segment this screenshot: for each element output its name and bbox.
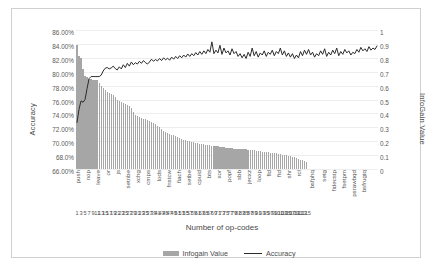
y-tick-label-right: 0	[380, 169, 384, 175]
x-category-label: fsetpm	[340, 170, 347, 189]
y-tick-label-left: 70.00%	[52, 141, 74, 147]
y-tick-label-right: 0.6	[380, 86, 389, 92]
y-tick-label-left: 74.00%	[52, 113, 74, 119]
x-category-label: loop	[255, 170, 262, 182]
y-tick-label-right: 0.4	[380, 113, 389, 119]
y-tick-label-right: 0.8	[380, 58, 389, 64]
y-tick-label-left: 86.00%	[52, 30, 74, 36]
x-category-label: setnbe	[124, 170, 131, 189]
x-category-label: fld	[265, 170, 272, 177]
x-category-label: bts	[205, 170, 212, 178]
plot-area	[76, 30, 378, 169]
y-tick-label-left: 72.00%	[52, 127, 74, 133]
x-category-label: ftd	[275, 170, 282, 177]
y-tick-label-left: 68.0%	[56, 155, 74, 161]
legend-item-accuracy: Accuracy	[244, 249, 296, 258]
x-category-label: bsfphq	[308, 170, 315, 189]
y-tick-label-left: 84.00%	[52, 44, 74, 50]
y-axis-title-right: InfoGain Value	[416, 64, 428, 174]
x-category-label: psrawbqd	[350, 170, 357, 197]
x-category-label: nop	[84, 170, 91, 180]
y-tick-label-left: 76.00%	[52, 100, 74, 106]
x-category-label: sbb	[235, 170, 242, 180]
x-category-label: cpuid	[195, 170, 202, 185]
x-category-label: or	[104, 170, 111, 176]
y-axis-tick-labels-left: 66.00%68.0%70.00%72.00%74.00%76.00%78.00…	[36, 27, 74, 169]
x-category-label: fidecstp	[330, 170, 337, 191]
x-tick-number: 1	[75, 210, 78, 216]
y-tick-label-right: 0.9	[380, 44, 389, 50]
x-category-label: lods	[155, 170, 162, 181]
x-tick-number: 5	[83, 210, 86, 216]
legend-item-infogain: Infogain Value	[163, 249, 228, 258]
y-tick-label-left: 82.00%	[52, 58, 74, 64]
y-tick-label-left: 66.00%	[52, 169, 74, 175]
line-series-accuracy	[76, 30, 378, 169]
line-swatch-icon	[244, 253, 262, 254]
x-category-label: leave	[94, 170, 101, 185]
y-axis-title-right-label: InfoGain Value	[418, 93, 427, 145]
legend-label-infogain: Infogain Value	[183, 249, 228, 258]
y-tick-label-right: 0.5	[380, 100, 389, 106]
y-tick-label-right: 0.3	[380, 127, 389, 133]
x-category-label: popf	[225, 170, 232, 182]
x-tick-number: 115	[302, 210, 311, 216]
x-tick-number: 3	[79, 210, 82, 216]
x-category-label: xchg	[134, 170, 141, 183]
x-category-label: push	[74, 170, 81, 183]
y-tick-label-left: 78.00%	[52, 86, 74, 92]
x-axis-title: Number of op-codes	[72, 223, 372, 232]
legend-label-accuracy: Accuracy	[266, 249, 296, 258]
x-category-label: js	[114, 170, 121, 174]
x-category-label: setbe	[185, 170, 192, 185]
x-category-label: bsfrugtq	[360, 170, 367, 192]
chart-legend: Infogain Value Accuracy	[12, 249, 434, 258]
chart-frame: Accuracy InfoGain Value 66.00%68.0%70.00…	[11, 8, 421, 258]
x-category-label: jecxz	[245, 170, 252, 184]
bar-swatch-icon	[163, 251, 179, 256]
y-axis-tick-labels-right: 00.10.20.30.40.50.60.70.80.91	[378, 27, 396, 169]
y-tick-label-right: 1	[380, 30, 384, 36]
x-category-label: fiach	[175, 170, 182, 183]
x-category-label: xor	[215, 170, 222, 179]
y-tick-label-right: 0.7	[380, 72, 389, 78]
y-tick-label-left: 80.00%	[52, 72, 74, 78]
x-category-label: rcl	[295, 170, 302, 177]
x-axis-tick-numbers: 1357911131517192123252729313335373941434…	[76, 210, 378, 220]
x-category-label: shr	[285, 170, 292, 179]
x-category-label: setg	[320, 170, 327, 182]
x-category-label: cmps	[144, 170, 151, 185]
y-tick-label-right: 0.2	[380, 141, 389, 147]
x-tick-number: 7	[88, 210, 91, 216]
x-category-label: fnstcw	[165, 170, 172, 188]
y-tick-label-right: 0.1	[380, 155, 389, 161]
